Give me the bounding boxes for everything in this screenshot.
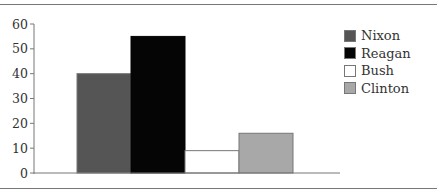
legend: Nixon Reagan Bush Clinton — [344, 27, 411, 97]
y-tick-label: 50 — [12, 41, 28, 56]
legend-label: Nixon — [361, 28, 400, 43]
y-tick-label: 40 — [12, 66, 28, 81]
legend-item-clinton: Clinton — [344, 80, 411, 98]
y-tick-label: 10 — [12, 141, 28, 156]
y-tick-label: 20 — [12, 116, 28, 131]
legend-swatch-clinton — [344, 82, 356, 94]
bar-bush — [185, 151, 239, 173]
legend-swatch-reagan — [344, 47, 356, 59]
legend-item-nixon: Nixon — [344, 27, 411, 45]
legend-item-reagan: Reagan — [344, 45, 411, 63]
bar-nixon — [77, 74, 131, 173]
y-axis: 0102030405060 — [12, 17, 34, 181]
y-tick-label: 30 — [12, 91, 28, 106]
bars — [77, 36, 293, 173]
legend-label: Clinton — [361, 81, 409, 96]
y-tick-label: 60 — [12, 17, 28, 32]
y-tick-label: 0 — [20, 166, 28, 181]
legend-swatch-nixon — [344, 30, 356, 42]
legend-label: Reagan — [361, 46, 411, 61]
legend-label: Bush — [361, 63, 394, 78]
bar-clinton — [239, 133, 293, 173]
legend-swatch-bush — [344, 65, 356, 77]
legend-item-bush: Bush — [344, 62, 411, 80]
bar-reagan — [131, 36, 185, 173]
